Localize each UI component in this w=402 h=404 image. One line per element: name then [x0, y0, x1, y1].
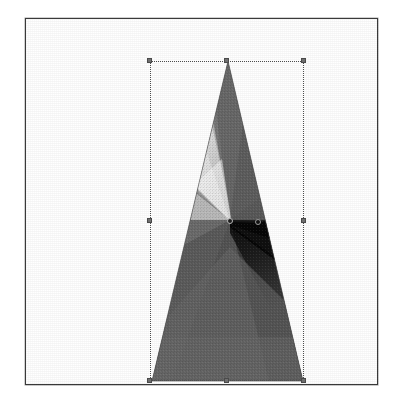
handle-middle-left[interactable] — [147, 218, 152, 223]
triangle-shape[interactable] — [26, 19, 379, 386]
handle-top-center[interactable] — [224, 58, 229, 63]
gradient-origin-handle[interactable] — [227, 218, 233, 224]
canvas-description: White artboard with a thin dark border c… — [0, 16, 1, 17]
handle-bottom-right[interactable] — [301, 378, 306, 383]
gradient-end-handle[interactable] — [255, 219, 261, 225]
artboard-frame[interactable] — [25, 18, 378, 385]
artwork-layer[interactable] — [26, 19, 379, 386]
handle-bottom-left[interactable] — [147, 378, 152, 383]
handle-bottom-center[interactable] — [224, 378, 229, 383]
graphics-canvas-window: White artboard with a thin dark border c… — [0, 0, 402, 404]
handle-middle-right[interactable] — [301, 218, 306, 223]
handle-top-left[interactable] — [147, 58, 152, 63]
handle-top-right[interactable] — [301, 58, 306, 63]
